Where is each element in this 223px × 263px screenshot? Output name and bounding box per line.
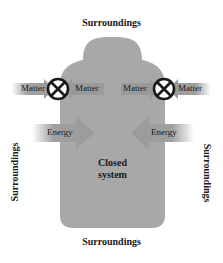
closed-system-diagram: Surroundings Surroundings Surroundings S… — [0, 0, 223, 263]
matter-label-right-inner: Matter — [123, 83, 147, 93]
circle-x-icon — [154, 79, 174, 99]
matter-label-right-outer: Matter — [178, 83, 202, 93]
surroundings-label-left: Surroundings — [9, 143, 20, 202]
closed-system-label: Closed system — [84, 157, 141, 181]
surroundings-label-bottom: Surroundings — [0, 236, 223, 247]
surroundings-label-top: Surroundings — [0, 17, 223, 28]
diagram-graphics — [0, 0, 223, 263]
energy-label-left: Energy — [47, 127, 73, 137]
surroundings-label-right: Surroundings — [202, 144, 213, 203]
closed-system-label-line1: Closed — [84, 157, 141, 169]
closed-system-label-line2: system — [84, 169, 141, 181]
circle-x-icon — [48, 79, 68, 99]
matter-label-left-outer: Matter — [21, 83, 45, 93]
matter-label-left-inner: Matter — [75, 83, 99, 93]
energy-label-right: Energy — [151, 127, 177, 137]
